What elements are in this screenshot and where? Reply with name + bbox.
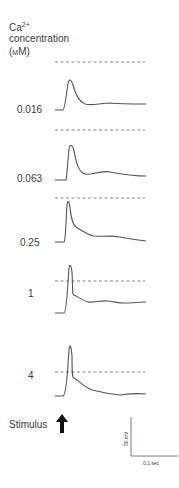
scale-bar-time-label: 0.1 sec <box>143 460 159 466</box>
traces-plot <box>0 0 179 488</box>
trace-4 <box>55 346 146 396</box>
scale-bar <box>131 417 178 456</box>
stimulus-arrow-icon <box>56 414 68 433</box>
trace-0016 <box>55 80 146 110</box>
trace-0063 <box>55 145 146 180</box>
traces <box>55 80 146 396</box>
stimulus-label: Stimulus <box>9 419 47 430</box>
trace-025 <box>55 201 146 242</box>
trace-1 <box>55 265 146 313</box>
threshold-lines <box>55 62 145 372</box>
scale-bar-voltage-label: 30 mV <box>123 432 129 446</box>
